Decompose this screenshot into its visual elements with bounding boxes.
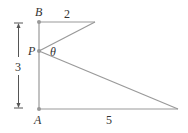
label-theta: θ (50, 45, 56, 59)
segment-P-bottom (39, 51, 178, 109)
label-B: B (35, 5, 43, 19)
label-A: A (33, 113, 42, 127)
label-height: 3 (15, 60, 21, 74)
geometry-diagram: B P A θ 2 5 3 (0, 0, 188, 133)
point-A (37, 107, 41, 111)
label-bottom-length: 5 (106, 113, 112, 127)
point-B (37, 20, 41, 24)
arrowhead-down-icon (17, 103, 21, 108)
segment-P-top (39, 22, 95, 51)
label-top-length: 2 (64, 7, 70, 21)
arrowhead-up-icon (17, 23, 21, 28)
label-P: P (27, 44, 36, 58)
point-P (37, 49, 41, 53)
